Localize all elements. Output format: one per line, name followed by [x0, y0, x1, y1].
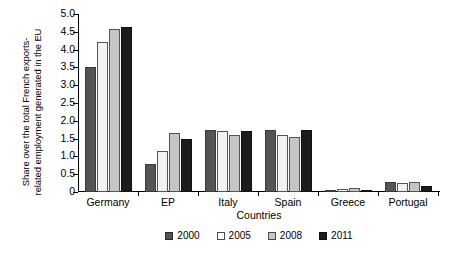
legend-swatch-2011-icon — [319, 232, 327, 240]
legend-item-2008: 2008 — [268, 230, 302, 242]
bar-group-spain — [258, 14, 318, 192]
legend-swatch-2005-icon — [217, 232, 225, 240]
legend-swatch-2008-icon — [268, 232, 276, 240]
legend-swatch-2000-icon — [165, 232, 173, 240]
bar-italy-2008 — [229, 135, 240, 192]
bar-italy-2011 — [241, 131, 252, 192]
bar-germany-2008 — [109, 29, 120, 192]
bar-portugal-2005 — [397, 183, 408, 192]
legend-label-2000: 2000 — [177, 230, 199, 242]
y-tick-label-8: 4.0 — [60, 43, 75, 56]
bar-group-greece — [318, 14, 378, 192]
y-tick-label-2: 1.0 — [60, 149, 75, 162]
y-tick-label-9: 4.5 — [60, 25, 75, 38]
bar-spain-2011 — [301, 130, 312, 192]
legend-item-2005: 2005 — [217, 230, 251, 242]
chart-legend: 2000 2005 2008 2011 — [78, 230, 440, 242]
plot-area: 0 0.5 1.0 1.5 2.0 2.5 3.0 3.5 4.0 4.5 5.… — [78, 14, 440, 192]
bar-spain-2005 — [277, 135, 288, 192]
legend-item-2000: 2000 — [165, 230, 199, 242]
x-label-spain: Spain — [258, 196, 318, 209]
x-label-germany: Germany — [78, 196, 138, 209]
x-axis-title: Countries — [78, 209, 440, 222]
x-label-italy: Italy — [198, 196, 258, 209]
legend-item-2011: 2011 — [319, 230, 353, 242]
bar-germany-2000 — [85, 67, 96, 192]
bar-italy-2005 — [217, 131, 228, 192]
x-label-portugal: Portugal — [378, 196, 438, 209]
bar-group-italy — [198, 14, 258, 192]
legend-label-2008: 2008 — [280, 230, 302, 242]
y-tick-label-3: 1.5 — [60, 132, 75, 145]
bar-spain-2008 — [289, 137, 300, 192]
bar-greece-2011 — [361, 190, 372, 192]
bar-ep-2011 — [181, 139, 192, 192]
y-tick-label-7: 3.5 — [60, 60, 75, 73]
y-axis-title-line-2: related employment generated in the EU — [32, 29, 44, 196]
bar-group-ep — [138, 14, 198, 192]
bar-portugal-2011 — [421, 186, 432, 192]
bar-ep-2000 — [145, 164, 156, 192]
y-tick-label-1: 0.5 — [60, 167, 75, 180]
y-axis-title-line-1: Share over the total French exports- — [20, 38, 32, 186]
y-tick-label-5: 2.5 — [60, 96, 75, 109]
x-label-ep: EP — [138, 196, 198, 209]
y-axis-title: Share over the total French exports- rel… — [16, 12, 48, 212]
y-tick-label-4: 2.0 — [60, 114, 75, 127]
bar-chart-figure: Share over the total French exports- rel… — [0, 0, 456, 256]
x-tick-sep-6 — [438, 192, 439, 196]
bar-greece-2008 — [349, 188, 360, 192]
bar-ep-2005 — [157, 151, 168, 192]
bar-portugal-2000 — [385, 182, 396, 192]
bar-germany-2011 — [121, 27, 132, 192]
y-tick-label-10: 5.0 — [60, 7, 75, 20]
bar-germany-2005 — [97, 42, 108, 192]
bar-spain-2000 — [265, 130, 276, 192]
bar-group-portugal — [378, 14, 438, 192]
bar-greece-2000 — [325, 190, 336, 192]
legend-label-2005: 2005 — [229, 230, 251, 242]
x-label-greece: Greece — [318, 196, 378, 209]
y-tick-label-0: 0 — [69, 185, 75, 198]
bar-group-germany — [78, 14, 138, 192]
y-tick-label-6: 3.0 — [60, 78, 75, 91]
bar-portugal-2008 — [409, 182, 420, 192]
legend-label-2011: 2011 — [331, 230, 353, 242]
bar-ep-2008 — [169, 133, 180, 192]
bar-italy-2000 — [205, 130, 216, 192]
bar-greece-2005 — [337, 189, 348, 192]
